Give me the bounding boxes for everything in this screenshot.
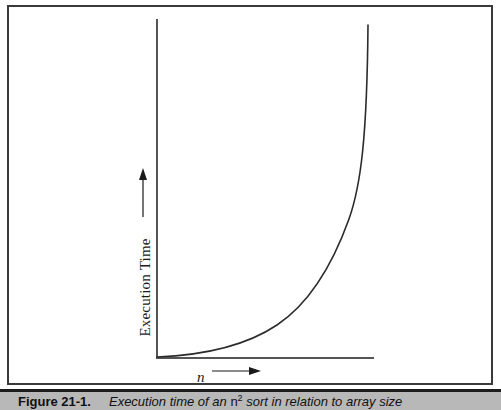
figure-caption-bar: Figure 21-1. Execution time of an n2 sor… [0,389,501,410]
caption-symbol: n [230,394,237,409]
caption-text-before: Execution time of an [109,394,230,409]
figure-caption-label: Figure 21-1. [18,394,91,409]
figure-caption-text: Execution time of an n2 sort in relation… [109,393,402,409]
figure-page: Execution Time n Figure 21-1. Execution … [0,0,501,410]
x-axis-title: n [197,369,205,386]
y-axis-title: Execution Time [137,238,154,336]
right-arrow-icon [212,367,261,375]
caption-text-after: sort in relation to array size [243,394,403,409]
x-axis-label-block: n [197,367,205,387]
execution-time-curve [157,25,368,357]
y-axis-label-block: Execution Time [127,167,163,357]
figure-frame: Execution Time n [7,5,493,385]
plot-canvas [9,7,495,387]
